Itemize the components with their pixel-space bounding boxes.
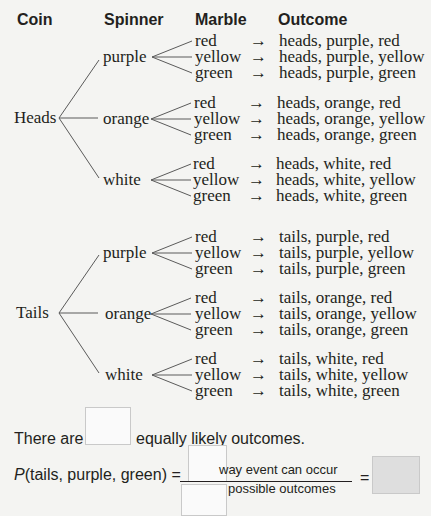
- outcome-label: heads, purple, green: [279, 65, 416, 81]
- spinner-heads-orange: orange: [103, 111, 149, 127]
- spinner-tails-white: white: [105, 367, 143, 383]
- total-outcomes-answer-box[interactable]: [85, 407, 131, 445]
- denominator-answer-box[interactable]: [181, 484, 227, 516]
- spinner-tails-orange: orange: [105, 306, 151, 322]
- marble-label: green: [195, 322, 233, 338]
- marble-label: green: [195, 261, 233, 277]
- arrow-icon: →: [250, 261, 267, 277]
- marble-label: green: [195, 65, 233, 81]
- outcome-label: heads, orange, green: [277, 127, 417, 143]
- coin-tails: Tails: [16, 305, 49, 321]
- spinner-tails-purple: purple: [103, 245, 146, 261]
- numerator-label: way event can occur: [219, 462, 338, 477]
- arrow-icon: →: [250, 322, 267, 338]
- arrow-icon: →: [248, 127, 265, 143]
- probability-event: (tails, purple, green) =: [25, 466, 181, 483]
- denominator-label: possible outcomes: [228, 481, 336, 496]
- outcome-label: tails, purple, green: [279, 261, 406, 277]
- probability-letter: P: [14, 466, 25, 483]
- outcome-label: tails, white, green: [279, 383, 400, 399]
- arrow-icon: →: [250, 383, 267, 399]
- arrow-icon: →: [248, 188, 265, 204]
- spinner-heads-purple: purple: [103, 49, 146, 65]
- question1-prefix: There are: [14, 430, 83, 448]
- spinner-heads-white: white: [103, 172, 141, 188]
- equals-sign: =: [360, 469, 369, 487]
- outcome-label: heads, white, green: [276, 188, 407, 204]
- arrow-icon: →: [250, 65, 267, 81]
- probability-result-box[interactable]: [372, 456, 420, 494]
- probability-expression: P(tails, purple, green) =: [14, 466, 181, 484]
- coin-heads: Heads: [14, 110, 56, 126]
- marble-label: green: [193, 188, 231, 204]
- marble-label: green: [194, 127, 232, 143]
- marble-label: green: [195, 383, 233, 399]
- outcome-label: tails, orange, green: [279, 322, 408, 338]
